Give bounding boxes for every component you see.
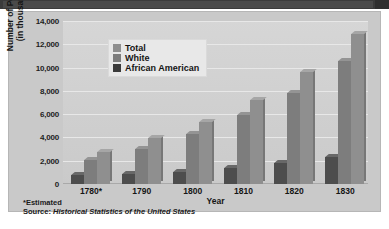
x-axis-tick: 1810 [234, 186, 253, 196]
y-axis-tick-labels: 14,00012,00010,0008,0006,0004,0002,0000 [9, 21, 59, 184]
bar-face [237, 115, 250, 184]
bar-total-1810 [250, 100, 263, 184]
bar-face [351, 34, 364, 184]
y-axis-tick: 0 [11, 180, 59, 189]
bar-face [338, 61, 351, 184]
chart-footnotes: *Estimated Source: Historical Statistics… [23, 198, 373, 216]
legend-label-african-american: African American [125, 63, 199, 73]
bar-total-1790 [148, 138, 161, 184]
y-axis-tick: 10,000 [11, 63, 59, 72]
bar-face [71, 175, 84, 184]
y-axis-tick: 4,000 [11, 133, 59, 142]
bar-face [148, 138, 161, 184]
bar-total-1780 [97, 152, 110, 184]
legend-swatch-white-icon [113, 54, 121, 62]
bar-african-american-1800 [173, 172, 186, 184]
bar-face [84, 160, 97, 184]
chart-legend: Total White African American [108, 39, 207, 77]
banner-inner [3, 1, 373, 8]
bar-total-1800 [199, 122, 212, 184]
bar-african-american-1780 [71, 175, 84, 184]
banner-right-cap [375, 0, 389, 9]
x-axis-tick: 1790 [132, 186, 151, 196]
bar-white-1780 [84, 160, 97, 184]
bar-face [224, 168, 237, 184]
bar-african-american-1830 [325, 157, 338, 184]
bar-white-1810 [237, 115, 250, 184]
footnote-source-lead: Source: [23, 207, 53, 216]
y-axis-tick: 12,000 [11, 40, 59, 49]
bar-face [325, 157, 338, 184]
bar-group [266, 21, 317, 184]
page-bottom-strip [0, 216, 389, 229]
y-axis-tick: 8,000 [11, 86, 59, 95]
chart-panel: Number of Persons(in thousands) 14,00012… [8, 11, 381, 212]
bar-group [216, 21, 267, 184]
bar-african-american-1810 [224, 168, 237, 184]
bar-face [173, 172, 186, 184]
bar-top [250, 97, 267, 100]
bar-face [199, 122, 212, 184]
bar-face [274, 163, 287, 184]
bar-side [161, 135, 163, 181]
bar-white-1830 [338, 61, 351, 184]
bar-side [263, 97, 265, 181]
bar-side [313, 69, 315, 181]
y-axis-tick: 6,000 [11, 110, 59, 119]
bar-white-1820 [287, 93, 300, 184]
bar-face [250, 100, 263, 184]
bar-group [63, 21, 114, 184]
bar-white-1790 [135, 149, 148, 184]
footnote-estimated: *Estimated [23, 198, 373, 207]
bar-face [300, 72, 313, 184]
bar-african-american-1790 [122, 174, 135, 184]
bar-face [287, 93, 300, 184]
x-axis-tick: 1800 [183, 186, 202, 196]
legend-label-total: Total [125, 43, 146, 53]
legend-item-african-american: African American [113, 63, 199, 73]
legend-label-white: White [125, 53, 150, 63]
bar-side [110, 149, 112, 181]
footnote-source: Source: Historical Statistics of the Uni… [23, 207, 373, 216]
bar-side [364, 31, 366, 181]
y-axis-tick: 2,000 [11, 156, 59, 165]
bar-white-1800 [186, 134, 199, 184]
x-axis-tick: 1820 [285, 186, 304, 196]
chart-figure: Number of Persons(in thousands) 14,00012… [0, 0, 389, 229]
page-top-banner [0, 0, 389, 9]
footnote-source-title: Historical Statistics of the United Stat… [53, 207, 195, 216]
y-axis-tick: 14,000 [11, 17, 59, 26]
x-axis-tick: 1830 [336, 186, 355, 196]
bar-total-1820 [300, 72, 313, 184]
bar-face [97, 152, 110, 184]
x-axis-tick: 1780* [80, 186, 102, 196]
bar-face [122, 174, 135, 184]
legend-item-white: White [113, 53, 199, 63]
bar-face [135, 149, 148, 184]
bar-group [317, 21, 368, 184]
legend-swatch-total-icon [113, 44, 121, 52]
legend-swatch-african-american-icon [113, 64, 121, 72]
bar-side [212, 119, 214, 181]
bar-face [186, 134, 199, 184]
bar-african-american-1820 [274, 163, 287, 184]
legend-item-total: Total [113, 43, 199, 53]
bar-total-1830 [351, 34, 364, 184]
